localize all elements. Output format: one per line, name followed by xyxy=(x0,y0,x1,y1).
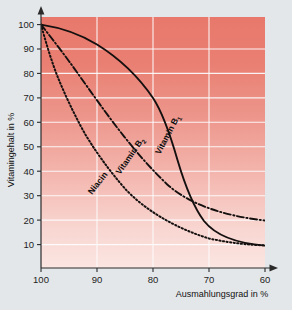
x-tick-label-100: 100 xyxy=(33,274,49,285)
chart-figure: Vitamin B1 Vitamin B2 Niacin xyxy=(0,0,292,310)
x-tick-label-90: 90 xyxy=(92,274,103,285)
y-tick-label-60: 60 xyxy=(23,117,34,128)
y-tick-label-90: 90 xyxy=(23,43,34,54)
y-tick-label-30: 30 xyxy=(23,190,34,201)
x-tick-label-80: 80 xyxy=(148,274,159,285)
y-tick-label-10: 10 xyxy=(23,239,34,250)
y-tick-label-80: 80 xyxy=(23,68,34,79)
x-tick-label-70: 70 xyxy=(204,274,215,285)
x-tick-label-60: 60 xyxy=(260,274,271,285)
y-axis-tick-labels: 100 90 80 70 60 50 40 30 20 10 xyxy=(18,19,34,250)
y-axis-title-text: Vitamingehalt in % xyxy=(6,113,16,187)
y-tick-label-40: 40 xyxy=(23,166,34,177)
y-tick-label-20: 20 xyxy=(23,215,34,226)
y-tick-label-100: 100 xyxy=(18,19,34,30)
x-axis-title-text: Ausmahlungsgrad in % xyxy=(176,289,269,299)
chart-canvas: Vitamin B1 Vitamin B2 Niacin xyxy=(0,0,292,310)
y-axis-arrow-icon xyxy=(38,6,45,15)
y-tick-label-50: 50 xyxy=(23,141,34,152)
x-axis-arrow-icon xyxy=(270,265,279,272)
y-axis-title: Vitamingehalt in % xyxy=(6,113,16,187)
x-axis-tick-labels: 100 90 80 70 60 xyxy=(33,274,270,285)
y-tick-label-70: 70 xyxy=(23,92,34,103)
